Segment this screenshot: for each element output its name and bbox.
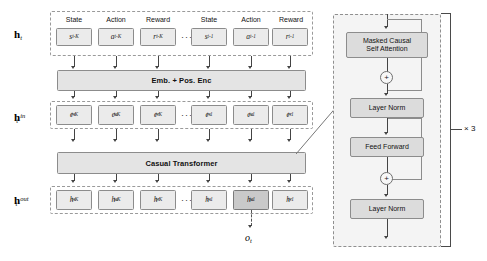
token-sub: t-1: [249, 112, 255, 117]
column-header-state-right: State: [189, 16, 229, 23]
token-sub: t-K: [114, 197, 121, 202]
row-label-h-in: hint: [14, 111, 18, 124]
token-sub: t-K: [71, 112, 78, 117]
arrow-head: [113, 66, 117, 69]
token-sub: t-1: [288, 112, 294, 117]
row-label-h-t-sub: t: [20, 34, 22, 41]
arrow-head: [155, 96, 159, 99]
row-label-h-out-sub: t: [15, 200, 17, 207]
arrow-head: [71, 139, 75, 142]
input-token-state-left: st-K: [56, 28, 92, 46]
output-token-reward-left: hrt-K: [140, 190, 176, 210]
arrow-head: [384, 236, 388, 239]
final-output-sub: t: [250, 237, 252, 244]
arrow-head: [248, 66, 252, 69]
token-sub: t-K: [72, 34, 79, 39]
token-sub: t-1: [249, 197, 255, 202]
layer-norm-2-block: Layer Norm: [350, 199, 424, 219]
embedded-token-state-left: est-K: [56, 105, 92, 125]
input-token-action-right: at-1: [233, 28, 269, 46]
arrow-head: [113, 96, 117, 99]
token-sub: t-K: [156, 197, 163, 202]
token-sub: t-1: [289, 34, 295, 39]
token-sub: t-K: [114, 112, 121, 117]
embedded-token-reward-left: ert-K: [140, 105, 176, 125]
row-label-h-out-sup: out: [20, 195, 28, 202]
output-token-action-right-highlighted: hat-1: [233, 190, 269, 210]
arrow-line: [387, 157, 388, 173]
layer-norm-1-block: Layer Norm: [350, 98, 424, 118]
input-token-reward-right: rt-1: [272, 28, 308, 46]
token-sub: t-1: [207, 112, 213, 117]
arrow-head: [248, 225, 252, 228]
arrow-head: [287, 139, 291, 142]
arrow-head: [71, 96, 75, 99]
output-token-reward-right: hrt-1: [272, 190, 308, 210]
column-header-action-right: Action: [231, 16, 271, 23]
arrow-head: [206, 139, 210, 142]
arrow-head: [113, 180, 117, 183]
token-sub: t-K: [115, 34, 122, 39]
output-token-action-left: hat-K: [98, 190, 134, 210]
column-header-action-left: Action: [96, 16, 136, 23]
column-header-state-left: State: [54, 16, 94, 23]
masked-causal-self-attention-block: Masked Causal Self Attention: [346, 32, 428, 58]
token-sub: t-1: [208, 34, 214, 39]
arrow-head: [206, 180, 210, 183]
embedded-token-state-right: est-1: [191, 105, 227, 125]
arrow-line: [387, 58, 388, 72]
arrow-head: [287, 66, 291, 69]
arrow-head: [155, 139, 159, 142]
column-header-reward-left: Reward: [138, 16, 178, 23]
diagram-canvas: ht hint houtt State Action Reward State …: [0, 0, 487, 261]
arrow-line-dashed: [251, 210, 252, 226]
output-token-state-left: hst-K: [56, 190, 92, 210]
token-sub: t-1: [288, 197, 294, 202]
arrow-line: [387, 219, 388, 237]
token-sub: t-K: [156, 34, 163, 39]
input-token-reward-left: rt-K: [140, 28, 176, 46]
arrow-head: [384, 194, 388, 197]
token-sub: t-K: [155, 112, 162, 117]
arrow-head: [71, 66, 75, 69]
arrow-head: [248, 96, 252, 99]
arrow-head: [206, 66, 210, 69]
arrow-head: [384, 93, 388, 96]
embedded-token-action-left: eat-K: [98, 105, 134, 125]
repeat-count-label: × 3: [464, 124, 475, 133]
arrow-head: [155, 66, 159, 69]
arrow-head: [248, 139, 252, 142]
row-label-h-in-sup: in: [20, 112, 25, 119]
row-label-h-t: ht: [14, 28, 22, 41]
output-token-state-right: hst-1: [191, 190, 227, 210]
repeat-bracket: [441, 13, 451, 247]
embedding-positional-encoding-bar: Emb. + Pos. Enc: [57, 70, 306, 91]
residual-add-icon-1: +: [380, 71, 393, 84]
column-header-reward-right: Reward: [269, 16, 313, 23]
arrow-line: [387, 118, 388, 133]
arrow-head: [384, 132, 388, 135]
input-token-state-right: st-1: [191, 28, 227, 46]
arrow-head: [287, 96, 291, 99]
causal-transformer-bar: Casual Transformer: [57, 152, 306, 174]
row-label-h-out: houtt: [14, 194, 17, 207]
arrow-head: [71, 180, 75, 183]
arrow-head: [287, 180, 291, 183]
input-token-action-left: at-K: [98, 28, 134, 46]
arrow-head: [206, 96, 210, 99]
embedded-token-action-right: eat-1: [233, 105, 269, 125]
residual-add-icon-2: +: [380, 172, 393, 185]
row-label-h-in-sub: t: [16, 117, 18, 124]
arrow-head: [113, 139, 117, 142]
final-output-label: ot: [245, 232, 252, 244]
repeat-bracket-tick: [451, 129, 462, 130]
feed-forward-block: Feed Forward: [350, 137, 424, 157]
token-sub: t-1: [250, 34, 256, 39]
token-sub: t-K: [72, 197, 79, 202]
token-sub: t-1: [207, 197, 213, 202]
arrow-head: [248, 180, 252, 183]
arrow-head: [155, 180, 159, 183]
